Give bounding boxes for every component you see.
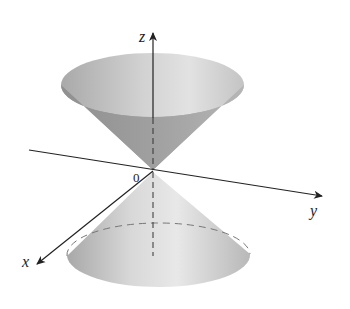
z-axis-label: z: [138, 28, 146, 45]
x-axis-label: x: [21, 253, 29, 270]
y-axis-label: y: [308, 202, 318, 220]
lower-nappe: [67, 172, 250, 287]
double-cone-figure: z y x 0: [0, 0, 350, 309]
lower-cone-body: [67, 172, 250, 287]
y-axis: [29, 150, 322, 196]
origin-label: 0: [133, 170, 140, 185]
